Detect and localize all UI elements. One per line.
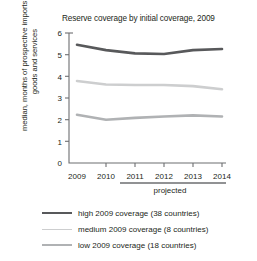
y-tick-marks xyxy=(65,33,69,141)
chart-figure: Reserve coverage by initial coverage, 20… xyxy=(0,0,257,261)
legend-label-low: low 2009 coverage (18 countries) xyxy=(78,241,196,250)
series-line-medium xyxy=(77,81,222,89)
legend-item-low: low 2009 coverage (18 countries) xyxy=(42,237,257,253)
chart-legend: high 2009 coverage (38 countries) medium… xyxy=(42,205,257,253)
legend-line-swatch-low xyxy=(42,244,72,246)
series-line-high xyxy=(77,45,222,54)
legend-label-medium: medium 2009 coverage (8 countries) xyxy=(78,225,208,234)
legend-line-swatch-medium xyxy=(42,229,72,230)
legend-item-medium: medium 2009 coverage (8 countries) xyxy=(42,221,257,237)
legend-item-high: high 2009 coverage (38 countries) xyxy=(42,205,257,221)
series-line-low xyxy=(77,115,222,120)
legend-line-swatch-high xyxy=(42,212,72,214)
legend-label-high: high 2009 coverage (38 countries) xyxy=(78,209,199,218)
x-tick-marks xyxy=(106,163,222,167)
